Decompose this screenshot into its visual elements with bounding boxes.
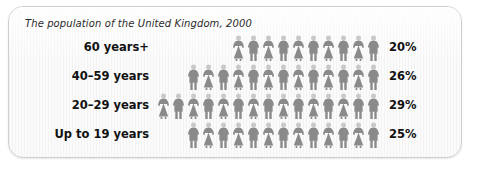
person-icon bbox=[321, 64, 336, 91]
row-label: Up to 19 years bbox=[9, 127, 149, 141]
person-icon bbox=[261, 93, 276, 120]
person-icon bbox=[336, 64, 351, 91]
pictogram-icon-strip bbox=[155, 91, 381, 120]
person-icon bbox=[351, 35, 366, 62]
person-icon bbox=[246, 122, 261, 149]
person-icon bbox=[366, 64, 381, 91]
person-icon bbox=[171, 93, 186, 120]
chart-row: 20–29 years29% bbox=[9, 91, 461, 120]
person-icon bbox=[276, 122, 291, 149]
person-icon bbox=[306, 35, 321, 62]
person-icon bbox=[201, 64, 216, 91]
pictogram-chart-panel: The population of the United Kingdom, 20… bbox=[8, 6, 462, 158]
person-icon bbox=[351, 64, 366, 91]
person-icon bbox=[201, 93, 216, 120]
person-icon bbox=[216, 93, 231, 120]
person-icon bbox=[186, 64, 201, 91]
person-icon bbox=[321, 35, 336, 62]
chart-row: 60 years+20% bbox=[9, 33, 461, 62]
person-icon bbox=[246, 64, 261, 91]
person-icon bbox=[291, 93, 306, 120]
person-icon bbox=[216, 64, 231, 91]
person-icon bbox=[336, 93, 351, 120]
chart-title: The population of the United Kingdom, 20… bbox=[25, 18, 252, 29]
row-value: 29% bbox=[389, 98, 417, 112]
person-icon bbox=[351, 122, 366, 149]
person-icon bbox=[246, 93, 261, 120]
person-icon bbox=[156, 93, 171, 120]
person-icon bbox=[366, 35, 381, 62]
person-icon bbox=[276, 93, 291, 120]
chart-row: Up to 19 years25% bbox=[9, 120, 461, 149]
person-icon bbox=[366, 122, 381, 149]
person-icon bbox=[231, 93, 246, 120]
person-icon bbox=[336, 122, 351, 149]
pictogram-icon-strip bbox=[155, 62, 381, 91]
person-icon bbox=[261, 35, 276, 62]
person-icon bbox=[261, 64, 276, 91]
person-icon bbox=[321, 93, 336, 120]
person-icon bbox=[216, 122, 231, 149]
person-icon bbox=[336, 35, 351, 62]
person-icon bbox=[321, 122, 336, 149]
row-value: 26% bbox=[389, 69, 417, 83]
person-icon bbox=[306, 64, 321, 91]
person-icon bbox=[231, 35, 246, 62]
pictogram-icon-strip bbox=[155, 120, 381, 149]
person-icon bbox=[306, 122, 321, 149]
person-icon bbox=[186, 122, 201, 149]
row-value: 25% bbox=[389, 127, 417, 141]
row-label: 40–59 years bbox=[9, 69, 149, 83]
person-icon bbox=[291, 35, 306, 62]
person-icon bbox=[231, 64, 246, 91]
row-value: 20% bbox=[389, 40, 417, 54]
person-icon bbox=[276, 64, 291, 91]
chart-rows-container: 60 years+20%40–59 years26%20–29 years29%… bbox=[9, 33, 461, 149]
person-icon bbox=[261, 122, 276, 149]
person-icon bbox=[276, 35, 291, 62]
row-label: 60 years+ bbox=[9, 40, 149, 54]
person-icon bbox=[306, 93, 321, 120]
person-icon bbox=[351, 93, 366, 120]
person-icon bbox=[186, 93, 201, 120]
row-label: 20–29 years bbox=[9, 98, 149, 112]
person-icon bbox=[366, 93, 381, 120]
person-icon bbox=[291, 64, 306, 91]
person-icon bbox=[231, 122, 246, 149]
pictogram-icon-strip bbox=[155, 33, 381, 62]
person-icon bbox=[246, 35, 261, 62]
chart-row: 40–59 years26% bbox=[9, 62, 461, 91]
person-icon bbox=[291, 122, 306, 149]
person-icon bbox=[201, 122, 216, 149]
